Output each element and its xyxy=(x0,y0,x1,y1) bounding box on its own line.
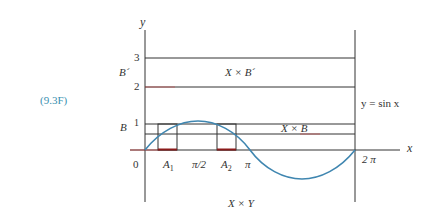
equation-label: (9.3F) xyxy=(40,94,67,106)
diagram-canvas xyxy=(0,0,431,219)
y-axis-label: y xyxy=(140,15,145,30)
label-B: B xyxy=(120,121,127,133)
tick-x0: 0 xyxy=(133,158,139,170)
region-X-times-B-prime: X × B´ xyxy=(225,66,255,78)
tick-x-pi-half: π/2 xyxy=(192,158,206,170)
A2-box xyxy=(217,124,236,150)
curve-label: y = sin x xyxy=(361,97,399,109)
A1-box xyxy=(158,124,177,150)
x-axis-label: x xyxy=(407,141,412,156)
label-A2: A2 xyxy=(221,158,232,173)
region-X-times-B: X × B xyxy=(281,122,307,134)
label-A1: A1 xyxy=(163,158,174,173)
tick-x-2pi: 2 π xyxy=(362,153,376,165)
tick-y1: 1 xyxy=(134,117,139,128)
tick-x-pi: π xyxy=(245,158,251,170)
region-X-times-Y: X × Y xyxy=(228,197,254,209)
label-B-prime: B´ xyxy=(119,66,129,78)
tick-y2: 2 xyxy=(134,80,140,92)
tick-y3: 3 xyxy=(134,51,140,63)
